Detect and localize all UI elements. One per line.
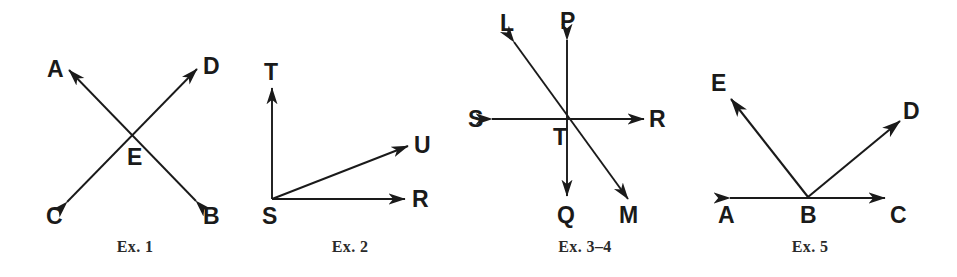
figure-ex34: L P S T R Q M Ex. 3–4 bbox=[450, 0, 700, 277]
caption-ex2: Ex. 2 bbox=[332, 238, 369, 256]
diagram-ex34: L P S T R Q M bbox=[450, 0, 700, 277]
caption-ex5: Ex. 5 bbox=[792, 238, 829, 256]
point-label-d: D bbox=[903, 98, 920, 124]
point-label-r: R bbox=[412, 186, 429, 212]
figure-ex1: A D E C B Ex. 1 bbox=[0, 0, 250, 277]
point-label-s: S bbox=[262, 203, 277, 229]
point-label-t: T bbox=[264, 59, 278, 85]
figure-ex2: T U S R Ex. 2 bbox=[250, 0, 450, 277]
point-label-m: M bbox=[619, 202, 638, 228]
ray-su bbox=[272, 146, 408, 199]
point-label-a: A bbox=[718, 202, 735, 228]
figure-sheet: A D E C B Ex. 1 T U S R Ex. 2 bbox=[0, 0, 957, 277]
figure-ex5: E D A B C Ex. 5 bbox=[700, 0, 957, 277]
point-label-p: P bbox=[560, 8, 575, 34]
diagram-ex1: A D E C B bbox=[0, 0, 250, 277]
diagram-ex5: E D A B C bbox=[700, 0, 957, 277]
point-label-e: E bbox=[127, 144, 142, 170]
point-label-b: B bbox=[203, 203, 220, 229]
point-label-l: L bbox=[500, 10, 514, 36]
ray-be bbox=[731, 99, 808, 197]
caption-ex1: Ex. 1 bbox=[117, 238, 154, 256]
point-label-r: R bbox=[649, 106, 666, 132]
point-label-b: B bbox=[800, 202, 817, 228]
point-label-d: D bbox=[203, 53, 220, 79]
point-label-q: Q bbox=[557, 202, 575, 228]
ray-bd bbox=[808, 121, 900, 197]
point-label-e: E bbox=[711, 70, 726, 96]
point-label-c: C bbox=[46, 203, 63, 229]
point-label-s: S bbox=[468, 106, 483, 132]
point-label-a: A bbox=[47, 56, 64, 82]
caption-ex34: Ex. 3–4 bbox=[558, 238, 611, 256]
line-lm bbox=[514, 42, 628, 199]
point-label-c: C bbox=[890, 202, 907, 228]
point-label-u: U bbox=[414, 132, 431, 158]
diagram-ex2: T U S R bbox=[250, 0, 450, 277]
point-label-t: T bbox=[553, 124, 567, 150]
